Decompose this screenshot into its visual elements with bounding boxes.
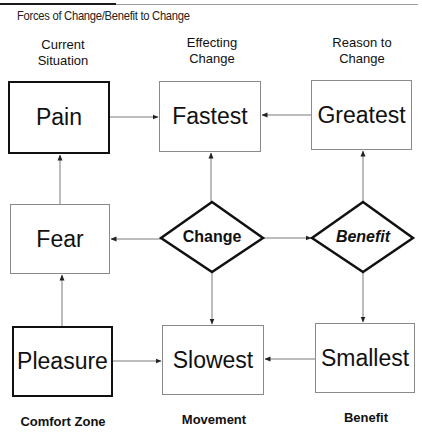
node-label: Greatest (317, 102, 405, 129)
node-label: Pleasure (17, 348, 108, 375)
column-footer-benefit: Benefit (301, 410, 422, 425)
node-fear: Fear (10, 204, 110, 274)
node-label: Fastest (172, 103, 247, 130)
node-greatest: Greatest (311, 80, 412, 150)
node-pleasure: Pleasure (12, 326, 113, 397)
diamond-label-benefit: Benefit (313, 228, 413, 246)
node-label: Pain (36, 104, 82, 131)
node-label: Fear (36, 226, 83, 253)
node-smallest: Smallest (315, 323, 415, 393)
column-footer-comfort-zone: Comfort Zone (0, 414, 128, 429)
diamond-label-change: Change (162, 228, 262, 246)
node-fastest: Fastest (159, 81, 261, 152)
node-label: Smallest (321, 345, 409, 372)
column-footer-movement: Movement (149, 412, 279, 427)
node-pain: Pain (8, 81, 110, 154)
node-label: Slowest (173, 347, 254, 374)
node-slowest: Slowest (162, 325, 264, 395)
